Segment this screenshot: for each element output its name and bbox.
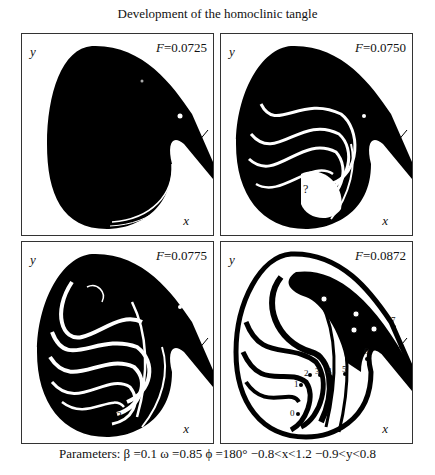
point-label-4: 4 bbox=[327, 366, 332, 376]
question-mark-annotation: ? bbox=[303, 182, 308, 197]
f-value-label: F=0.0725 bbox=[156, 40, 207, 56]
x-axis-label: x bbox=[183, 213, 189, 229]
y-axis-label: y bbox=[229, 252, 235, 268]
basin-plot-a bbox=[22, 34, 213, 235]
parameters-caption: Parameters: β =0.1 ω =0.85 ϕ =180° −0.8<… bbox=[0, 446, 435, 462]
x-axis-label: x bbox=[382, 213, 388, 229]
f-value-label: F=0.0775 bbox=[156, 248, 207, 264]
x-axis-label: x bbox=[382, 421, 388, 437]
panel-f-0872: 0 1 2 3 4 5 6 7 y F=0.0872 x bbox=[220, 241, 413, 444]
f-value-label: F=0.0872 bbox=[355, 248, 406, 264]
basin-plot-d bbox=[221, 242, 412, 443]
point-label-6: 6 bbox=[364, 346, 369, 356]
chart-title: Development of the homoclinic tangle bbox=[0, 6, 435, 22]
point-label-2: 2 bbox=[304, 368, 309, 378]
point-label-1: 1 bbox=[294, 379, 299, 389]
point-label-3: 3 bbox=[315, 366, 320, 376]
panel-f-0775: ? y F=0.0775 x bbox=[21, 241, 214, 444]
point-label-0: 0 bbox=[290, 408, 295, 418]
y-axis-label: y bbox=[229, 44, 235, 60]
x-axis-label: x bbox=[183, 421, 189, 437]
y-axis-label: y bbox=[30, 252, 36, 268]
panel-f-0750: ? y F=0.0750 x bbox=[220, 33, 413, 236]
point-label-5: 5 bbox=[342, 364, 347, 374]
y-axis-label: y bbox=[30, 44, 36, 60]
basin-plot-b bbox=[221, 34, 412, 235]
f-value-label: F=0.0750 bbox=[355, 40, 406, 56]
question-mark-annotation: ? bbox=[117, 410, 121, 421]
point-label-7: 7 bbox=[391, 315, 396, 325]
panel-f-0725: y F=0.0725 x bbox=[21, 33, 214, 236]
